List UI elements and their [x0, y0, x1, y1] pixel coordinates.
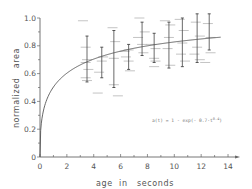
error-bar [112, 31, 115, 88]
x-tick-label: 6 [118, 162, 123, 171]
fit-curve [40, 37, 221, 157]
x-tick-label: 2 [64, 162, 69, 171]
error-bars [86, 14, 211, 88]
error-bar [167, 22, 170, 68]
y-tick-label: 1.0 [24, 14, 36, 23]
axes [40, 18, 240, 159]
error-bar [181, 18, 184, 67]
y-tick-label: 0.6 [24, 69, 36, 78]
x-tick-label: 14 [223, 162, 233, 171]
y-tick-label: 0.8 [24, 41, 36, 50]
x-axis-label: age in seconds [96, 179, 174, 188]
error-bar [208, 14, 211, 50]
axis-tick-labels: 0246810121400.20.40.60.81.0 [24, 14, 233, 171]
fit-formula-annotation: a(t) = 1 - exp(- 0.7·t0.4) [152, 117, 222, 124]
x-tick-label: 10 [170, 162, 180, 171]
x-tick-label: 4 [91, 162, 96, 171]
error-bar [196, 14, 199, 63]
error-bar [100, 47, 103, 78]
error-bar [141, 22, 144, 55]
y-tick-label: 0.2 [24, 125, 36, 134]
y-tick-label: 0.4 [24, 97, 36, 106]
y-tick-label: 0 [31, 153, 36, 162]
x-tick-label: 0 [38, 162, 43, 171]
chart-canvas: 0246810121400.20.40.60.81.0 age in secon… [0, 0, 252, 189]
x-tick-label: 12 [196, 162, 206, 171]
error-bar [86, 36, 89, 82]
x-axis-arrow-icon [235, 155, 240, 158]
x-tick-label: 8 [145, 162, 150, 171]
y-axis-label: normalized area [12, 48, 21, 128]
